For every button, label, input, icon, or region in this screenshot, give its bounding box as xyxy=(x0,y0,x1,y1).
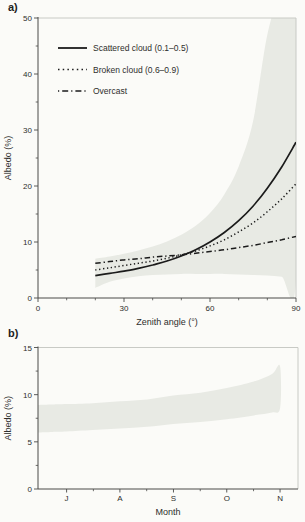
legend-entry: Scattered cloud (0.1–0.5) xyxy=(58,43,189,53)
legend-label: Scattered cloud (0.1–0.5) xyxy=(93,43,189,53)
y-tick-label: 30 xyxy=(23,126,32,135)
y-axis-title: Albedo (%) xyxy=(3,396,13,441)
month-tick-label: N xyxy=(277,494,283,503)
panel-a-chart: 010203040500306090Zenith angle (°)Albedo… xyxy=(0,0,305,330)
x-tick-label: 30 xyxy=(120,304,129,313)
y-tick-label: 0 xyxy=(28,294,33,303)
month-tick-label: S xyxy=(171,494,176,503)
legend-label: Overcast xyxy=(93,86,128,96)
y-tick-label: 40 xyxy=(23,70,32,79)
panel-b-chart: 051015JASONMonthAlbedo (%) xyxy=(0,330,305,522)
y-tick-label: 15 xyxy=(23,344,32,353)
y-axis-title: Albedo (%) xyxy=(3,136,13,181)
legend-entry: Broken cloud (0.6–0.9) xyxy=(58,65,179,75)
y-tick-label: 50 xyxy=(23,14,32,23)
y-tick-label: 5 xyxy=(28,438,33,447)
x-axis-title: Zenith angle (°) xyxy=(136,317,198,327)
legend-label: Broken cloud (0.6–0.9) xyxy=(93,65,179,75)
month-tick-label: J xyxy=(65,494,69,503)
x-axis-title: Month xyxy=(155,507,180,517)
y-tick-label: 20 xyxy=(23,182,32,191)
y-tick-label: 10 xyxy=(23,391,32,400)
x-tick-label: 90 xyxy=(292,304,301,313)
month-tick-label: O xyxy=(224,494,230,503)
month-tick-label: A xyxy=(117,494,123,503)
legend-entry: Overcast xyxy=(58,86,128,96)
y-tick-label: 10 xyxy=(23,238,32,247)
y-tick-label: 0 xyxy=(28,485,33,494)
albedo-band-area xyxy=(38,365,281,433)
x-tick-label: 0 xyxy=(36,304,41,313)
x-tick-label: 60 xyxy=(206,304,215,313)
